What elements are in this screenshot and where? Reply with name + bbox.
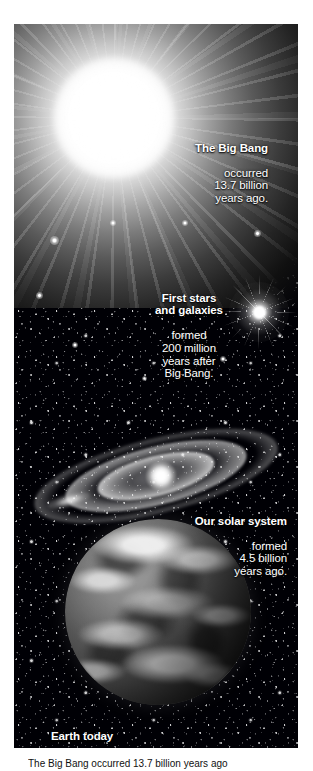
caption-first-stars-body: formed 200 million years after Big Bang. [141, 329, 237, 379]
cosmic-timeline-figure: The Big Bang occurred 13.7 billion years… [0, 0, 313, 771]
caption-earth-today-heading: Earth today [51, 730, 113, 743]
space-illustration-panel: The Big Bang occurred 13.7 billion years… [14, 24, 298, 748]
caption-solar-system-heading: Our solar system [195, 515, 287, 528]
caption-first-stars: First stars and galaxies formed 200 mill… [141, 279, 237, 392]
galaxy-companion-blob [46, 489, 92, 513]
star-icon-minor-f [72, 342, 78, 348]
star-icon-minor-d [182, 220, 188, 226]
caption-solar-system-body: formed 4.5 billion years ago. [195, 540, 287, 578]
caption-solar-system: Our solar system formed 4.5 billion year… [195, 502, 287, 590]
caption-first-stars-heading: First stars and galaxies [141, 292, 237, 317]
caption-big-bang-heading: The Big Bang [195, 142, 268, 155]
caption-earth-today: Earth today [51, 717, 113, 748]
star-icon-minor-a [50, 236, 59, 245]
galaxy-core [146, 461, 176, 491]
star-halo [229, 282, 289, 342]
star-icon-minor-e [254, 230, 261, 237]
figure-credit-line: The Big Bang occurred 13.7 billion years… [28, 757, 290, 771]
caption-big-bang: The Big Bang occurred 13.7 billion years… [195, 129, 268, 217]
galaxy-inner-arm [93, 442, 219, 510]
caption-big-bang-body: occurred 13.7 billion years ago. [195, 167, 268, 205]
big-bang-core [54, 58, 174, 178]
star-icon-minor-c [110, 220, 116, 226]
star-core [253, 306, 266, 319]
star-icon-minor-b [36, 292, 43, 299]
